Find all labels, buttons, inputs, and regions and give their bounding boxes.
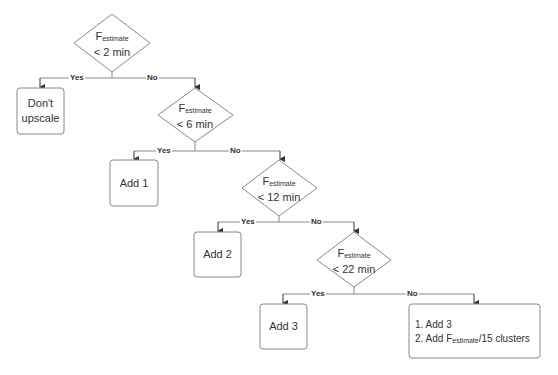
decision-4-text: Festimate < 22 min xyxy=(324,246,384,276)
action-add-3-text: Add 3 xyxy=(260,304,307,349)
edge-label-d2-no: No xyxy=(229,146,242,155)
final-step-2-suffix: /15 clusters xyxy=(479,333,530,344)
edge-label-d2-yes: Yes xyxy=(156,146,172,155)
final-step-2-sub: estimate xyxy=(452,337,478,344)
final-step-2: 2. Add Festimate/15 clusters xyxy=(415,332,539,347)
decision-3-sub: estimate xyxy=(269,180,295,187)
edge-label-d1-yes: Yes xyxy=(69,73,85,82)
decision-1-cond: < 2 min xyxy=(82,45,142,59)
decision-4-cond: < 22 min xyxy=(324,262,384,276)
decision-2-sub: estimate xyxy=(185,107,211,114)
decision-1-sub: estimate xyxy=(102,35,128,42)
edge-label-d4-yes: Yes xyxy=(310,289,326,298)
edge-label-d4-no: No xyxy=(406,289,419,298)
action-add-2-text: Add 2 xyxy=(194,232,241,277)
action-add-1-text: Add 1 xyxy=(110,160,158,206)
edge-label-d3-no: No xyxy=(310,217,323,226)
action-dont-upscale-line1: Don't xyxy=(28,96,53,111)
decision-1-text: Festimate < 2 min xyxy=(82,29,142,59)
action-dont-upscale-text: Don't upscale xyxy=(17,88,64,134)
final-step-1: 1. Add 3 xyxy=(415,318,539,332)
edge-label-d3-yes: Yes xyxy=(240,217,256,226)
final-step-2-prefix: 2. Add F xyxy=(415,333,452,344)
decision-3-text: Festimate < 12 min xyxy=(249,174,309,204)
decision-2-text: Festimate < 6 min xyxy=(165,101,225,131)
decision-4-sub: estimate xyxy=(344,252,370,259)
action-dont-upscale-line2: upscale xyxy=(22,111,60,126)
decision-2-cond: < 6 min xyxy=(165,117,225,131)
decision-3-cond: < 12 min xyxy=(249,190,309,204)
final-action-text: 1. Add 3 2. Add Festimate/15 clusters xyxy=(415,318,539,347)
edge-label-d1-no: No xyxy=(146,73,159,82)
